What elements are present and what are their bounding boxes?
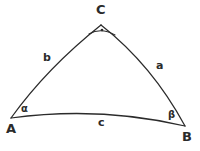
vertex-label-b: B (182, 130, 192, 143)
vertex-label-a: A (6, 122, 16, 135)
side-label-b: b (43, 52, 51, 63)
angle-label-alpha: α (21, 104, 28, 114)
right-angle-dot-icon (101, 29, 104, 32)
vertex-label-c: C (96, 3, 106, 16)
angle-label-beta: β (168, 110, 175, 120)
side-label-a: a (156, 60, 163, 71)
spherical-triangle-figure: A B C a b c α β (0, 0, 200, 151)
side-label-c: c (98, 117, 105, 128)
